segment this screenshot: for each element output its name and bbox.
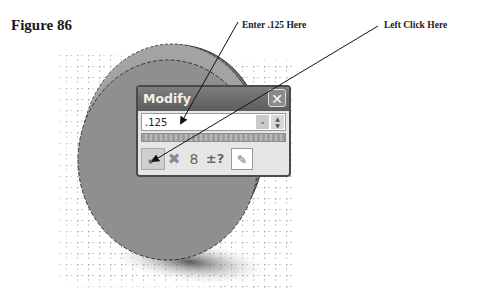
callout-left-click: Left Click Here: [384, 20, 447, 30]
ok-button[interactable]: ✔: [141, 148, 165, 170]
figure-title: Figure 86: [11, 17, 72, 34]
tolerance-button[interactable]: ±?: [203, 148, 227, 170]
chevron-down-icon[interactable]: ⌄: [256, 115, 269, 129]
value-input[interactable]: [145, 115, 250, 129]
dialog-title: Modify: [143, 91, 191, 106]
spin-stepper[interactable]: ▲▼: [271, 115, 284, 129]
dialog-toolbar: ✔ ✖ 8 ±? ✎: [141, 147, 286, 171]
close-icon[interactable]: ✕: [268, 89, 286, 107]
spin-up-icon[interactable]: ▲: [275, 115, 280, 122]
modify-dialog: Modify ✕ ⌄ ▲▼ ✔ ✖ 8 ±? ✎: [136, 85, 291, 177]
mark-for-drawing-button[interactable]: ✎: [231, 148, 253, 170]
thumbwheel-slider[interactable]: [141, 133, 286, 142]
dialog-titlebar[interactable]: Modify ✕: [138, 87, 289, 111]
value-field: ⌄ ▲▼: [141, 113, 286, 131]
callout-enter-value: Enter .125 Here: [242, 20, 306, 30]
rebuild-button[interactable]: 8: [187, 148, 201, 170]
spin-down-icon[interactable]: ▼: [275, 122, 280, 129]
cancel-button[interactable]: ✖: [165, 148, 183, 170]
